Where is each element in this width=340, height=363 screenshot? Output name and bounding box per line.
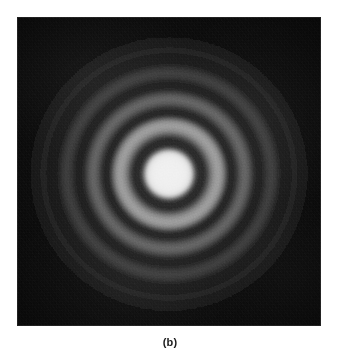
figure-caption: (b) xyxy=(0,336,340,348)
figure-root: (b) xyxy=(0,0,340,363)
film-grain-texture xyxy=(17,17,321,326)
diffraction-photo-panel xyxy=(17,17,321,326)
